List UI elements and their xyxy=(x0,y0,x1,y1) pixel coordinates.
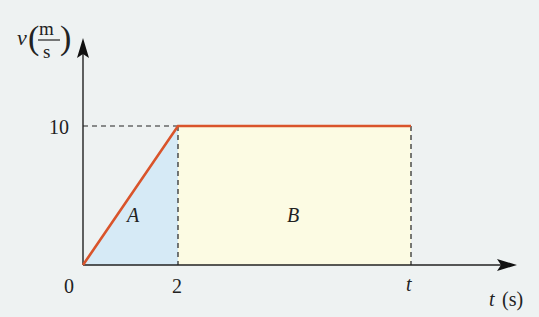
region-a-label: A xyxy=(125,204,140,226)
x-tick-0: 0 xyxy=(64,275,74,297)
y-axis-paren-left: ( xyxy=(28,19,39,57)
region-b-label: B xyxy=(287,204,299,226)
x-axis-label-symbol: t xyxy=(489,288,495,310)
velocity-time-chart: A B 10 0 2 t t (s) v ( m s ) xyxy=(0,0,539,317)
y-axis-paren-right: ) xyxy=(60,19,71,57)
x-tick-2: 2 xyxy=(172,275,182,297)
x-axis-label-unit: (s) xyxy=(502,288,523,311)
y-axis-label-symbol: v xyxy=(17,25,27,50)
y-tick-10: 10 xyxy=(49,116,69,138)
y-axis-label-num: m xyxy=(39,18,54,39)
y-axis-label-den: s xyxy=(43,41,50,62)
region-b xyxy=(178,126,411,265)
x-tick-t: t xyxy=(406,273,412,295)
